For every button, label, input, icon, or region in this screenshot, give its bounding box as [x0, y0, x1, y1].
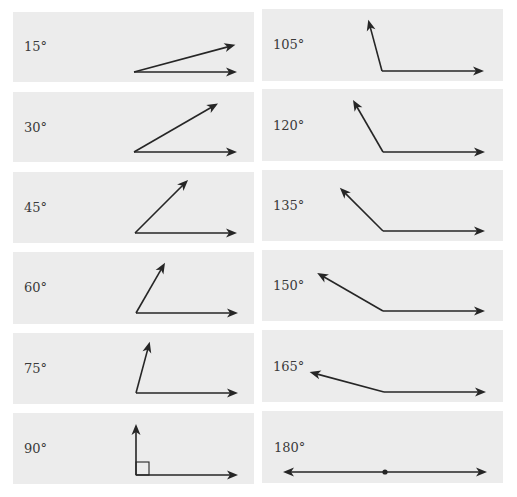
arrowhead-icon [156, 263, 165, 275]
arrowhead-icon [206, 104, 218, 113]
angle-15-drawing [134, 43, 237, 76]
angle-ray [135, 184, 184, 233]
angle-105-drawing [367, 20, 484, 76]
angle-120-drawing [353, 100, 485, 156]
vertex-dot-icon [382, 469, 387, 474]
angle-90-drawing [132, 424, 239, 480]
angle-60-drawing [136, 263, 238, 318]
angle-30-drawing [134, 104, 237, 157]
angle-ray [136, 268, 162, 313]
angle-ray [134, 107, 213, 153]
angle-rays-layer [0, 0, 517, 497]
angle-ray [315, 374, 384, 392]
arrowhead-icon [353, 100, 362, 112]
angle-ray [344, 192, 383, 231]
angle-ray [134, 46, 230, 72]
right-angle-marker-icon [136, 462, 149, 475]
angle-ray [370, 26, 382, 71]
angle-135-drawing [340, 188, 485, 236]
angle-180-drawing [283, 468, 487, 477]
angle-ray [356, 105, 383, 152]
angle-150-drawing [317, 273, 485, 316]
angle-165-drawing [310, 371, 486, 397]
angle-ray [322, 276, 383, 311]
arrowhead-icon [317, 273, 329, 282]
angle-ray [136, 348, 148, 393]
angle-75-drawing [136, 342, 238, 398]
angle-45-drawing [135, 180, 237, 238]
